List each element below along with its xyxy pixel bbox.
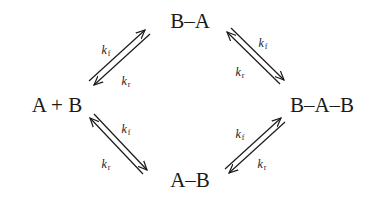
equilibrium-arrow-left-bottom	[90, 114, 147, 174]
reverse-arrow-icon	[90, 118, 143, 174]
rate-reverse-label: kr	[236, 66, 245, 80]
rate-reverse-label: kr	[122, 75, 131, 89]
species-bottom: A–B	[170, 170, 210, 191]
forward-arrow-icon	[89, 30, 145, 81]
species-right: B–A–B	[290, 95, 354, 116]
rate-forward-label: kf	[102, 44, 111, 58]
rate-reverse-label: kr	[258, 158, 267, 172]
rate-forward-label: kf	[236, 128, 245, 142]
equilibrium-arrow-left-top	[89, 30, 150, 85]
forward-arrow-icon	[225, 118, 281, 169]
rate-forward-label: kf	[259, 37, 268, 51]
reaction-diagram: B–A A + B B–A–B A–B kf kr kf kr kf kr kf…	[0, 0, 381, 197]
rate-forward-label: kf	[122, 123, 131, 137]
species-left: A + B	[32, 95, 82, 116]
rate-reverse-label: kr	[102, 158, 111, 172]
species-top: B–A	[170, 11, 210, 32]
equilibrium-arrow-bottom-right	[225, 118, 285, 173]
